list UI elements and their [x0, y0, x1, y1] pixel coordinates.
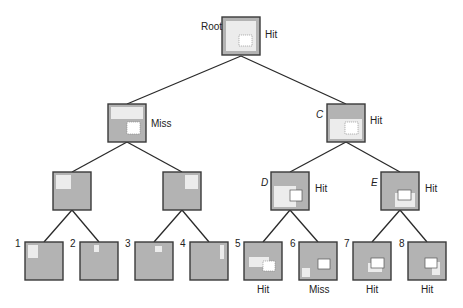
node-label: 7	[344, 238, 350, 249]
tree-diagram: Root Hit Miss C Hit D Hit E Hit	[0, 0, 463, 308]
node-label: 4	[180, 238, 186, 249]
edge-root-l1a	[127, 56, 241, 104]
node-l2a	[53, 172, 91, 210]
tree-edges	[44, 56, 427, 242]
edge-c-d	[290, 142, 346, 172]
edge-c-e	[346, 142, 400, 172]
node-label: D	[261, 177, 268, 188]
node-l2b	[163, 172, 201, 210]
node-n3: 3	[125, 238, 173, 280]
node-result: Miss	[309, 284, 330, 295]
node-label: 1	[15, 238, 21, 249]
node-n8: 8 Hit	[399, 238, 446, 295]
node-result: Hit	[315, 183, 327, 194]
node-label: 3	[125, 238, 131, 249]
node-n4: 4	[180, 238, 228, 280]
node-n1: 1	[15, 238, 63, 280]
node-result: Hit	[370, 115, 382, 126]
node-result: Hit	[265, 29, 277, 40]
node-label: 8	[399, 238, 405, 249]
edge-l2a-n1	[44, 210, 72, 242]
edge-l2a-n2	[72, 210, 99, 242]
node-c: C Hit	[316, 104, 382, 142]
node-label: E	[371, 177, 378, 188]
edge-e-n7	[372, 210, 400, 242]
edge-l1a-l2b	[127, 142, 182, 172]
node-result: Hit	[425, 183, 437, 194]
node-label: C	[316, 109, 324, 120]
node-result: Hit	[421, 284, 433, 295]
node-n7: 7 Hit	[344, 238, 391, 295]
node-root: Root Hit	[201, 17, 277, 55]
edge-l1a-l2a	[72, 142, 127, 172]
node-result: Hit	[366, 284, 378, 295]
node-label: 6	[290, 238, 296, 249]
edge-l2b-n4	[182, 210, 209, 242]
node-label: 5	[235, 238, 241, 249]
node-e: E Hit	[371, 172, 437, 210]
node-d: D Hit	[261, 172, 327, 210]
node-n6: 6 Miss	[290, 238, 337, 295]
node-n2: 2	[70, 238, 118, 280]
node-result: Hit	[257, 284, 269, 295]
edge-d-n5	[263, 210, 290, 242]
edge-l2b-n3	[154, 210, 182, 242]
node-result: Miss	[151, 118, 172, 129]
node-l1a: Miss	[108, 104, 172, 142]
node-n5: 5 Hit	[235, 238, 282, 295]
node-label: 2	[70, 238, 76, 249]
node-label: Root	[201, 21, 222, 32]
edge-root-c	[241, 56, 346, 104]
